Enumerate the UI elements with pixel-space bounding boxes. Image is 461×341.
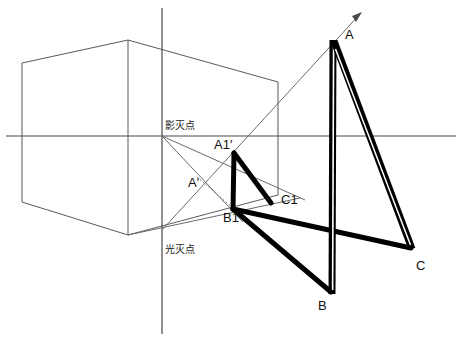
label-point-b: B <box>318 299 327 312</box>
label-point-a-prime: A′ <box>188 176 199 189</box>
label-shadow-vanishing-point: 影灭点 <box>165 121 195 131</box>
label-point-c1: C1 <box>281 193 298 206</box>
label-point-a: A <box>345 28 354 41</box>
object-edge-a-b-inner-highlight <box>333 46 334 290</box>
box-top-face <box>22 40 278 82</box>
diagram-canvas: 影灭点 光灭点 A B C A1′ A′ B1 C1 <box>0 0 461 341</box>
label-point-c: C <box>416 259 425 272</box>
label-point-a1-prime: A1′ <box>214 138 232 151</box>
object-figure <box>332 40 412 294</box>
label-point-b1: B1 <box>223 211 239 224</box>
label-light-vanishing-point: 光灭点 <box>165 245 195 255</box>
wireframe-box <box>22 40 278 235</box>
shadow-edge-a1-c1 <box>234 153 271 203</box>
construction-rays <box>128 14 360 235</box>
object-edge-a-c-inner-highlight <box>336 49 411 245</box>
shadow-edge-a1-b1 <box>233 153 234 209</box>
perspective-shadow-diagram <box>0 0 461 341</box>
